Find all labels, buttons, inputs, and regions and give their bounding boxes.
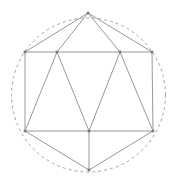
vertex-lower-mid xyxy=(88,130,91,133)
geometric-figure-canvas xyxy=(0,0,179,183)
vertex-upper-mid-right xyxy=(119,51,122,54)
vertex-upper-right xyxy=(151,51,154,54)
edge-upper-mid-right-to-lower-mid xyxy=(89,52,120,131)
vertex-apex-top xyxy=(87,12,90,15)
vertex-upper-mid-left xyxy=(56,51,59,54)
vertex-lower-right xyxy=(152,130,155,133)
circumscribed-circle xyxy=(12,18,166,172)
polyhedron-net-diagram xyxy=(0,0,179,183)
edges-group xyxy=(25,13,153,170)
vertex-lower-left xyxy=(24,130,27,133)
edge-upper-mid-left-to-lower-mid xyxy=(57,52,89,131)
edge-upper-right-to-lower-right xyxy=(152,52,153,131)
vertex-upper-left xyxy=(24,51,27,54)
vertex-apex-bottom xyxy=(88,169,91,172)
edge-lower-right-to-apex-bottom xyxy=(89,131,153,170)
edge-upper-mid-right-to-lower-right xyxy=(120,52,153,131)
edge-upper-mid-left-to-lower-left xyxy=(25,52,57,131)
edge-apex-top-to-upper-mid-right xyxy=(88,13,120,52)
edge-apex-top-to-upper-mid-left xyxy=(57,13,88,52)
edge-apex-top-to-upper-right xyxy=(88,13,152,52)
edge-apex-top-to-upper-left xyxy=(25,13,88,52)
